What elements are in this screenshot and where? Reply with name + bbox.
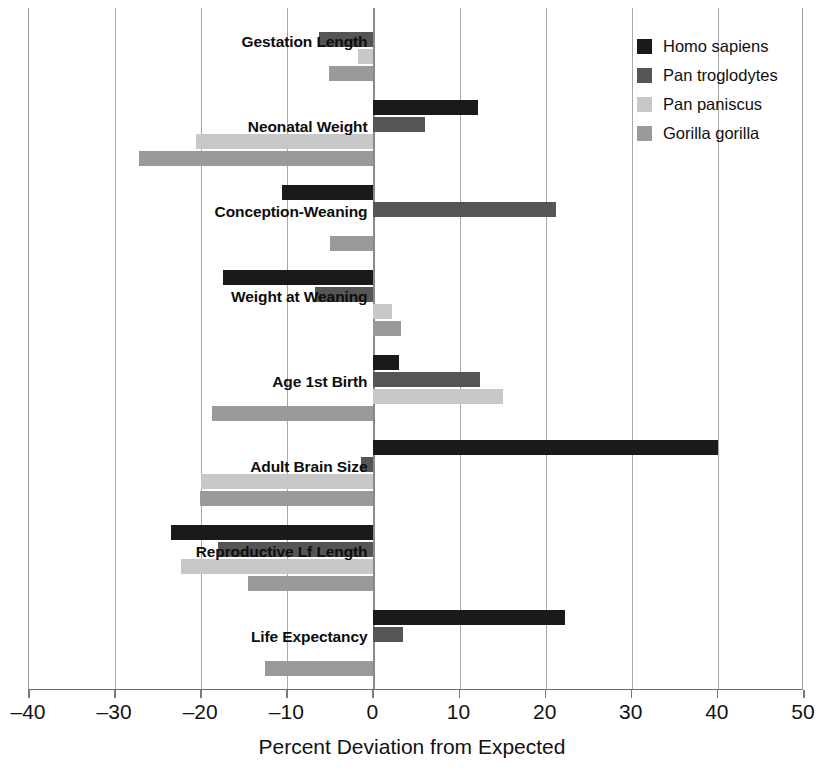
x-tick bbox=[717, 690, 719, 698]
bar bbox=[330, 236, 373, 251]
bar bbox=[139, 151, 373, 166]
bar bbox=[373, 100, 478, 115]
x-tick-label: 50 bbox=[773, 700, 824, 724]
x-tick bbox=[631, 690, 633, 698]
category-label: Neonatal Weight bbox=[248, 117, 368, 137]
x-tick bbox=[545, 690, 547, 698]
x-tick-label: 10 bbox=[429, 700, 489, 724]
x-tick-label: 40 bbox=[687, 700, 747, 724]
category-label: Conception-Weaning bbox=[215, 202, 368, 222]
x-tick bbox=[286, 690, 288, 698]
legend-label: Gorilla gorilla bbox=[663, 124, 759, 143]
legend-label: Homo sapiens bbox=[663, 37, 768, 56]
bar-group: Weight at Weaning bbox=[29, 265, 802, 350]
bar bbox=[373, 304, 392, 319]
x-tick-label: –10 bbox=[256, 700, 316, 724]
bar-group: Conception-Weaning bbox=[29, 180, 802, 265]
bar-chart: Gestation LengthNeonatal WeightConceptio… bbox=[0, 0, 824, 782]
bar bbox=[248, 576, 374, 591]
x-tick-label: –20 bbox=[170, 700, 230, 724]
bar bbox=[373, 321, 401, 336]
bar bbox=[373, 355, 399, 370]
x-tick-label: 30 bbox=[601, 700, 661, 724]
bar bbox=[223, 270, 374, 285]
category-label: Reproductive Lf Length bbox=[196, 542, 368, 562]
chart-legend: Homo sapiensPan troglodytesPan paniscusG… bbox=[637, 33, 817, 149]
category-label: Age 1st Birth bbox=[272, 372, 367, 392]
bar bbox=[212, 406, 374, 421]
bar bbox=[171, 525, 373, 540]
bar-group: Adult Brain Size bbox=[29, 435, 802, 520]
x-tick bbox=[459, 690, 461, 698]
bar bbox=[329, 66, 374, 81]
bar bbox=[373, 372, 480, 387]
bar bbox=[373, 440, 717, 455]
x-tick bbox=[28, 690, 30, 698]
x-tick bbox=[372, 690, 374, 698]
legend-label: Pan troglodytes bbox=[663, 66, 778, 85]
legend-item: Pan troglodytes bbox=[637, 62, 817, 89]
category-label: Adult Brain Size bbox=[250, 457, 367, 477]
bar bbox=[373, 627, 402, 642]
legend-swatch bbox=[637, 39, 652, 54]
bar-group: Age 1st Birth bbox=[29, 350, 802, 435]
bar bbox=[373, 202, 556, 217]
legend-item: Pan paniscus bbox=[637, 91, 817, 118]
bar bbox=[265, 661, 374, 676]
x-tick-label: 20 bbox=[515, 700, 575, 724]
x-tick-label: 0 bbox=[342, 700, 402, 724]
legend-swatch bbox=[637, 126, 652, 141]
bar bbox=[373, 117, 425, 132]
x-tick bbox=[200, 690, 202, 698]
x-tick-label: –30 bbox=[84, 700, 144, 724]
x-tick-label: –40 bbox=[0, 700, 58, 724]
bar-group: Life Expectancy bbox=[29, 605, 802, 690]
bar bbox=[282, 185, 373, 200]
category-label: Weight at Weaning bbox=[231, 287, 367, 307]
x-tick bbox=[803, 690, 805, 698]
x-axis-title: Percent Deviation from Expected bbox=[0, 735, 824, 759]
legend-swatch bbox=[637, 68, 652, 83]
bar bbox=[373, 610, 564, 625]
legend-label: Pan paniscus bbox=[663, 95, 762, 114]
legend-item: Gorilla gorilla bbox=[637, 120, 817, 147]
x-tick bbox=[114, 690, 116, 698]
legend-item: Homo sapiens bbox=[637, 33, 817, 60]
bar bbox=[373, 389, 502, 404]
legend-swatch bbox=[637, 97, 652, 112]
bar bbox=[200, 491, 374, 506]
bar-group: Reproductive Lf Length bbox=[29, 520, 802, 605]
category-label: Life Expectancy bbox=[251, 627, 368, 647]
category-label: Gestation Length bbox=[242, 32, 368, 52]
